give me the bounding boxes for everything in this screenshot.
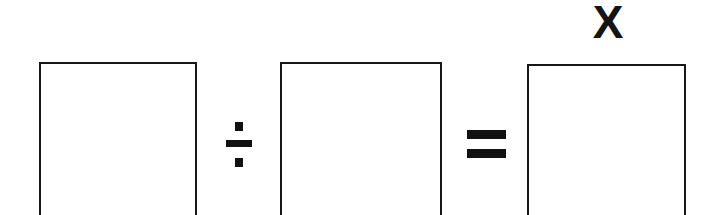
division-sign-dot-bottom (235, 158, 243, 167)
answer-box-quotient[interactable] (527, 64, 686, 215)
unknown-variable-label: X (588, 0, 628, 48)
division-sign-icon (226, 120, 252, 168)
answer-box-dividend[interactable] (39, 62, 197, 215)
equals-sign-icon (467, 130, 506, 158)
equals-sign-bar-top (467, 130, 506, 139)
division-sign-dot-top (235, 122, 243, 131)
answer-box-divisor[interactable] (280, 62, 442, 215)
division-sign-bar (226, 140, 252, 147)
worksheet-canvas: X (0, 0, 719, 215)
equals-sign-bar-bottom (467, 149, 506, 158)
